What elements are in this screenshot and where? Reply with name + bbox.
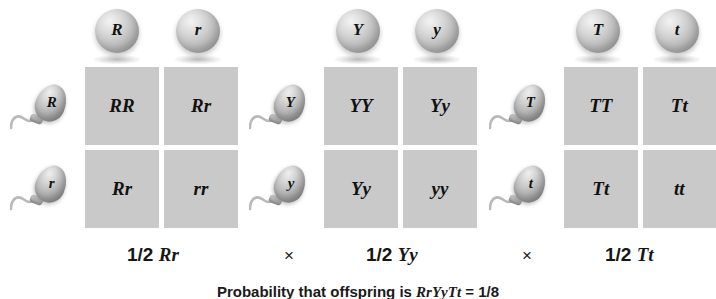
figure-caption: Probability that offspring is RrYyTt = 1… (0, 286, 716, 299)
sperm-gamete-t-dominant: T (493, 82, 559, 140)
caption-prefix: Probability that offspring is (217, 286, 416, 299)
sperm-label: T (526, 93, 535, 110)
egg-shadow (654, 55, 700, 64)
egg-label: t (675, 20, 680, 40)
probability-genotype: Tt (637, 244, 654, 265)
punnett-cell: Tt (643, 67, 716, 145)
egg-gamete-t-recessive: t (655, 9, 699, 53)
probability-fraction: 1/2 (366, 244, 392, 265)
probability-term-t: 1/2 Tt (605, 244, 654, 266)
multiply-operator-1: × (284, 246, 294, 266)
probability-fraction: 1/2 (127, 244, 153, 265)
probability-genotype: Yy (398, 244, 418, 265)
probability-formula-row: 1/2 Rr × 1/2 Yy × 1/2 Tt (0, 244, 716, 272)
punnett-cell: tt (643, 150, 716, 228)
punnett-cell: Tt (564, 150, 638, 228)
probability-term-r: 1/2 Rr (127, 244, 179, 266)
caption-genotype: RrYyTt (416, 286, 461, 299)
sperm-gamete-t-recessive: t (493, 163, 559, 221)
sperm-label: t (529, 174, 533, 191)
egg-shadow (575, 55, 621, 64)
punnett-cell: TT (564, 67, 638, 145)
caption-suffix: = 1/8 (461, 286, 499, 299)
probability-term-y: 1/2 Yy (366, 244, 418, 266)
egg-label: T (593, 20, 603, 40)
figure-caption-clip: Probability that offspring is RrYyTt = 1… (0, 286, 716, 299)
probability-genotype: Rr (159, 244, 179, 265)
egg-gamete-t-dominant: T (576, 9, 620, 53)
punnett-figure: R r R r RR Rr Rr r (0, 0, 716, 299)
probability-fraction: 1/2 (605, 244, 631, 265)
punnett-grid-t: TT Tt Tt tt (564, 67, 716, 228)
multiply-operator-2: × (522, 246, 532, 266)
